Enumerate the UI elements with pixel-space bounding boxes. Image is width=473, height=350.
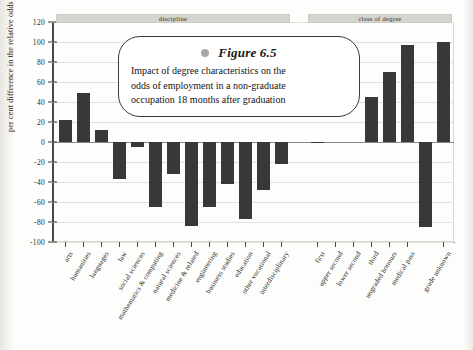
bar	[113, 142, 126, 179]
bar	[383, 72, 396, 142]
x-axis-tick-mark	[65, 242, 66, 247]
figure-caption-line-3: occupation 18 months after graduation	[131, 93, 347, 108]
bar	[221, 142, 234, 184]
x-axis-tick-mark	[101, 242, 102, 247]
group-header-discipline: discipline	[56, 14, 290, 23]
x-axis-tick-mark	[389, 242, 390, 247]
bar	[275, 142, 288, 164]
bar	[239, 142, 252, 219]
x-axis-tick-mark	[317, 242, 318, 247]
x-axis-tick-mark	[263, 242, 264, 247]
bar	[59, 120, 72, 142]
bar	[95, 130, 108, 142]
page-background: per cent difference in the relative odds…	[0, 0, 473, 350]
bar	[419, 142, 432, 227]
x-axis-tick-mark	[173, 242, 174, 247]
figure-caption-line-2: odds of employment in a non-graduate	[131, 79, 347, 94]
figure-caption-line-1: Impact of degree characteristics on the	[131, 64, 347, 79]
x-axis-tick-mark	[83, 242, 84, 247]
figure-caption-callout: Figure 6.5 Impact of degree characterist…	[118, 36, 360, 117]
x-axis-tick-label: law	[116, 250, 128, 263]
group-header-class-of-degree: class of degree	[308, 14, 452, 23]
x-axis-tick-label: first	[313, 250, 326, 265]
figure-caption-text: Impact of degree characteristics on the …	[131, 64, 347, 108]
x-axis-tick-mark	[353, 242, 354, 247]
x-axis-tick-mark	[191, 242, 192, 247]
y-axis-title: per cent difference in the relative odds	[6, 1, 15, 132]
x-axis-tick-mark	[155, 242, 156, 247]
x-axis-tick-mark	[137, 242, 138, 247]
bar	[149, 142, 162, 207]
bar	[77, 93, 90, 142]
figure-number: Figure 6.5	[218, 45, 276, 61]
bar	[185, 142, 198, 226]
bar	[203, 142, 216, 207]
x-axis-tick-mark	[443, 242, 444, 247]
figure-caption-title-row: Figure 6.5	[131, 43, 347, 61]
x-axis-tick-mark	[407, 242, 408, 247]
bar	[437, 42, 450, 142]
bar	[401, 45, 414, 142]
x-axis-tick-mark	[335, 242, 336, 247]
bar	[257, 142, 270, 190]
bullet-dot-icon	[201, 49, 209, 57]
x-axis-tick-mark	[209, 242, 210, 247]
bar	[131, 142, 144, 147]
bar	[311, 142, 324, 143]
bar	[365, 97, 378, 142]
x-axis-tick-label: grade unknown	[422, 250, 453, 293]
gridline: -100	[52, 242, 454, 243]
x-axis-tick-mark	[371, 242, 372, 247]
bar	[167, 142, 180, 174]
x-axis-tick-mark	[119, 242, 120, 247]
x-axis-tick-label: arts	[62, 250, 75, 264]
x-axis-tick-mark	[281, 242, 282, 247]
x-axis-tick-mark	[245, 242, 246, 247]
x-axis-tick-label: third	[366, 250, 380, 266]
x-axis-tick-mark	[227, 242, 228, 247]
